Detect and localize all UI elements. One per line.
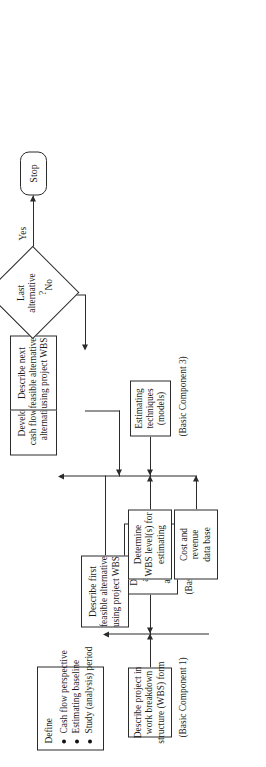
node-define-bullet-2: Estimating baseline — [70, 674, 83, 743]
node-describe-project-wbs-line-2: work breakdown — [144, 670, 155, 733]
node-describe-first-line-2: feasible alternative — [99, 555, 110, 626]
node-describe-project-wbs-line-1: Describe project in — [133, 666, 144, 737]
node-describe-next-line-1: Describe next — [17, 347, 28, 399]
connector-describe-next-to-spine — [119, 410, 120, 476]
connector-describe-next-riser — [85, 410, 120, 411]
arrowhead-define-to-junction — [147, 633, 153, 639]
connector-junction-to-describe-first — [105, 633, 151, 634]
node-estimating-techniques-line-3: (models) — [156, 391, 167, 424]
node-stop[interactable]: Stop — [20, 151, 47, 195]
node-describe-project-wbs-line-3: structure (WBS) form — [156, 661, 167, 743]
node-estimating-techniques[interactable]: Estimating techniques (models) — [130, 380, 171, 436]
node-determine-wbs-line-1: Determine — [133, 524, 144, 564]
node-define-title: Define — [43, 674, 56, 743]
connector-describe-project-to-spine — [150, 633, 209, 634]
node-database-line-3: data base — [202, 527, 213, 562]
arrowhead-describe-next-to-spine — [116, 469, 122, 475]
node-determine-wbs-level[interactable]: Determine WBS level(s) for estimating — [128, 509, 172, 579]
arrowhead-delineate-to-junction — [147, 627, 153, 633]
edge-label-no: No — [44, 278, 54, 291]
node-database-line-2: revenue — [190, 529, 201, 559]
node-cost-revenue-database[interactable]: Cost and revenue data base — [174, 509, 218, 579]
node-estimating-techniques-line-1: Estimating — [134, 388, 145, 429]
arrowhead-spine-to-develop-cash-flow — [58, 473, 64, 479]
decision-diamond-text: Last alternative ? — [0, 247, 78, 338]
node-determine-wbs-line-2: WBS level(s) for — [144, 512, 155, 576]
node-estimating-techniques-line-2: techniques — [145, 388, 156, 428]
connector-describe-first-to-junction2 — [105, 475, 106, 555]
figure-canvas: Describe project in work breakdown struc… — [0, 0, 266, 767]
node-describe-project-wbs[interactable]: Describe project in work breakdown struc… — [128, 667, 172, 737]
arrowhead-junction-to-describe-first — [103, 631, 109, 637]
arrowhead-estimating-tech-to-junction2 — [147, 469, 153, 475]
node-describe-first-line-3: using project WBS — [111, 555, 122, 626]
node-determine-wbs-line-3: estimating — [156, 524, 167, 563]
node-define-bullet-list: Cash flow perspective Estimating baselin… — [58, 674, 96, 743]
connector-decision-to-stop — [33, 195, 34, 251]
node-last-alternative-decision[interactable]: Last alternative ? — [0, 247, 78, 338]
node-describe-first-line-1: Describe first — [88, 566, 99, 617]
node-stop-label: Stop — [28, 164, 40, 182]
arrowhead-determine-wbs-to-junction2 — [147, 475, 153, 481]
node-define-bullet-1: Cash flow perspective — [58, 674, 71, 743]
arrowhead-decision-to-stop — [30, 195, 36, 201]
connector-decision-no-run — [85, 294, 86, 347]
node-describe-first-alternative[interactable]: Describe first feasible alternative usin… — [81, 555, 129, 627]
node-define-bullet-3: Study (analysis) period — [83, 674, 96, 743]
node-describe-next-line-2: feasible alternative — [28, 337, 39, 408]
caption-basic-component-1: (Basic Component 1) — [178, 657, 188, 737]
connector-spine-vertical-main — [60, 475, 196, 476]
node-describe-next-line-3: using project WBS — [39, 337, 50, 408]
caption-basic-component-3: (Basic Component 3) — [178, 356, 188, 436]
edge-label-yes: Yes — [18, 225, 28, 241]
arrowhead-database-to-spine — [193, 475, 199, 481]
decision-line-1: Last — [16, 284, 27, 300]
node-database-line-1: Cost and — [179, 527, 190, 560]
node-describe-next-alternative[interactable]: Describe next feasible alternative using… — [10, 335, 57, 410]
decision-line-2: alternative — [27, 273, 38, 313]
arrowhead-decision-no-to-describe-next — [82, 344, 88, 350]
flowchart-stage: Describe project in work breakdown struc… — [0, 0, 266, 767]
node-define[interactable]: Define Cash flow perspective Estimating … — [37, 666, 104, 750]
